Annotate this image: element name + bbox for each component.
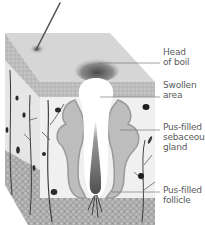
label-head-of-boil: Head of boil	[163, 47, 189, 67]
label-swollen-area: Swollen area	[163, 80, 196, 100]
label-pus-filled-sebaceous-gland: Pus-filled sebaceous gland	[163, 122, 205, 152]
label-pus-filled-follicle: Pus-filled follicle	[163, 185, 202, 205]
block-front-face	[40, 78, 155, 225]
